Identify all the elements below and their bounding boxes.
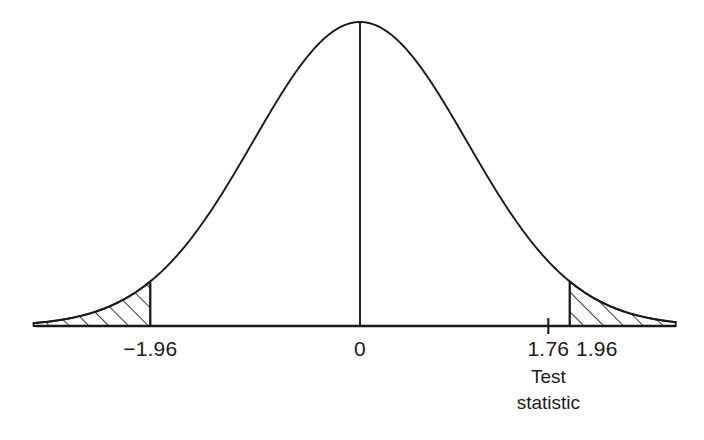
right-rejection-region	[570, 277, 676, 326]
test-statistic-annotation-line1: Test	[531, 366, 566, 388]
test-statistic-annotation-line2: statistic	[517, 392, 580, 414]
axis-label-test-statistic: 1.76	[527, 337, 569, 361]
bell-curve	[34, 22, 676, 323]
left-rejection-region	[34, 277, 151, 326]
distribution-plot	[0, 0, 704, 440]
axis-label-center: 0	[354, 337, 366, 361]
normal-distribution-figure: −1.96 0 1.76 1.96 Test statistic	[0, 0, 704, 440]
axis-label-right-critical: 1.96	[576, 337, 618, 361]
axis-label-left-critical: −1.96	[123, 337, 177, 361]
